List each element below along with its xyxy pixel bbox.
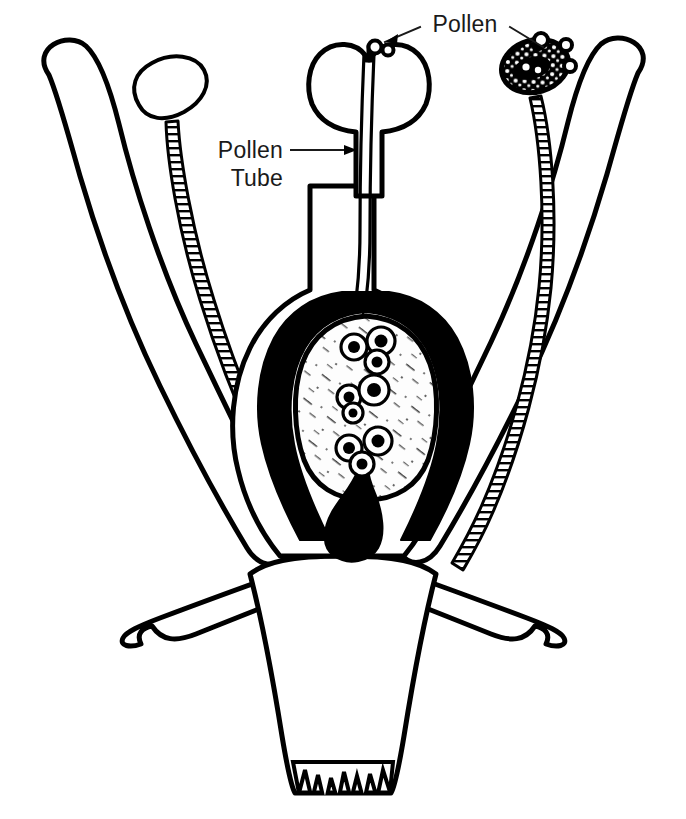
label-pollen-tube-line1: Pollen: [218, 137, 283, 163]
figure-canvas: Pollen Pollen Tube: [0, 0, 686, 819]
label-pollen-tube-line2: Tube: [231, 165, 283, 191]
label-pollen-text: Pollen: [432, 11, 497, 37]
flower-fertilization-diagram: Pollen Pollen Tube: [0, 0, 686, 819]
